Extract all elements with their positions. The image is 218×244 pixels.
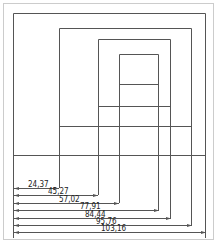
- arrowhead-left-icon: [14, 187, 19, 190]
- outer-frame: [4, 4, 214, 240]
- arrowhead-left-icon: [14, 231, 19, 234]
- arrowhead-right-icon: [93, 194, 98, 197]
- dimension-lines: 24,3745,2757,0277,9184,4495,76103,16: [14, 180, 206, 234]
- dimension-label: 24,37: [28, 180, 49, 189]
- rect-1: [14, 14, 206, 239]
- rect-3: [99, 40, 171, 219]
- arrowhead-right-icon: [114, 202, 119, 205]
- arrowhead-left-icon: [14, 217, 19, 220]
- rect-4: [120, 55, 159, 211]
- nested-rectangles-diagram: 24,3745,2757,0277,9184,4495,76103,16: [0, 0, 218, 244]
- arrowhead-left-icon: [14, 224, 19, 227]
- dimension-label: 103,16: [101, 224, 127, 233]
- dimension-label: 57,02: [59, 195, 80, 204]
- arrowhead-left-icon: [14, 209, 19, 212]
- arrowhead-left-icon: [14, 194, 19, 197]
- arrowhead-left-icon: [14, 202, 19, 205]
